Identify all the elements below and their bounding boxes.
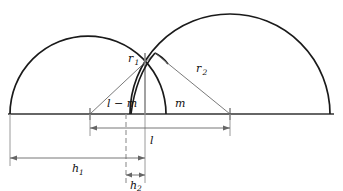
label-r1-subscript: 1 [135,58,140,67]
label-h2: h 2 [130,179,142,191]
label-r2-base: r [196,62,202,75]
right-arc [130,14,330,114]
geometry-figure: r 1 r 2 l − m m l h 1 h 2 [0,0,343,191]
label-h1: h 1 [72,162,84,177]
figure-canvas: r 1 r 2 l − m m l h 1 h 2 [0,0,343,191]
dimension-h2 [126,173,145,178]
label-l-minus-m: l − m [107,97,137,110]
label-l: l [150,134,154,147]
left-arc [10,36,166,114]
label-r2-subscript: 2 [202,68,208,77]
label-r2: r 2 [196,62,208,77]
label-h2-subscript: 2 [136,184,142,191]
dimension-h1 [10,155,145,160]
label-h1-subscript: 1 [79,168,84,177]
label-r1-base: r [128,52,134,65]
dimension-l [90,125,230,130]
label-m: m [175,97,185,110]
